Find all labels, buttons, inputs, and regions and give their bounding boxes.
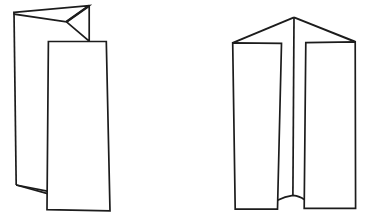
- right-folded-paper: [233, 17, 356, 209]
- folded-paper-illustration: [0, 0, 370, 223]
- left-folded-paper: [14, 6, 110, 211]
- right-roof-edge: [294, 17, 355, 41]
- left-front-panel: [233, 43, 282, 209]
- outer-panel-left-edge: [14, 12, 16, 185]
- front-panel: [47, 42, 110, 211]
- center-crease: [293, 17, 294, 195]
- left-roof-edge: [233, 17, 294, 42]
- bottom-fold-curve: [278, 195, 305, 200]
- right-front-panel: [304, 42, 355, 209]
- bottom-fold-lower-edge: [16, 185, 47, 194]
- illustration-page: [0, 0, 370, 223]
